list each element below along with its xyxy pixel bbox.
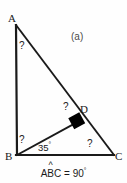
segment-AC: [16, 25, 114, 155]
vertex-label-C: C: [115, 151, 122, 162]
angle-hat-glyph: ^: [49, 161, 53, 170]
degree-symbol: °: [49, 141, 52, 148]
angle-label-at-A: ?: [19, 41, 25, 51]
caption-value: 90: [73, 168, 84, 179]
triangle-outline: [16, 25, 114, 155]
vertex-label-A: A: [8, 13, 16, 24]
geometry-figure: A B C D ? ? 35° ? ? (a) A^BC = 90°: [0, 0, 127, 183]
vertex-label-B: B: [5, 151, 12, 162]
panel-tag: (a): [71, 32, 83, 42]
angle-label-at-B-upper: ?: [19, 135, 25, 145]
caption-letter-A: A: [41, 168, 48, 179]
caption-equals: =: [61, 168, 72, 179]
caption-degree-symbol: °: [84, 167, 87, 174]
figure-caption: A^BC = 90°: [0, 167, 127, 179]
segment-AB: [16, 25, 17, 155]
caption-letter-B-with-hat: ^B: [47, 168, 54, 179]
angle-value-35: 35: [38, 142, 49, 153]
angle-label-at-B-lower: 35°: [38, 142, 51, 153]
triangle-diagram-svg: [0, 0, 127, 183]
angle-label-at-C: ?: [87, 139, 93, 149]
angle-label-at-D: ?: [63, 102, 69, 112]
vertex-label-D: D: [80, 104, 88, 115]
